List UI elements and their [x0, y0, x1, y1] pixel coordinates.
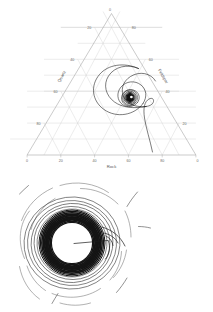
spiral-detail-panel: [0, 170, 213, 312]
bottom-tick-40: 40: [93, 159, 97, 163]
right-tick-60: 60: [149, 58, 153, 62]
ternary-grid: [10, 12, 196, 156]
left-tick-40: 40: [70, 58, 74, 62]
left-axis-title: Quartz: [56, 70, 67, 83]
left-tick-80: 80: [37, 122, 41, 126]
bottom-tick-0: 0: [26, 159, 28, 163]
ternary-panel: 0 20 40 60 80 0 Rock 80 60 40 20 80 60 4…: [0, 0, 213, 170]
ternary-diagram: 0 20 40 60 80 0 Rock 80 60 40 20 80 60 4…: [0, 0, 213, 170]
bottom-tick-100: 0: [197, 159, 199, 163]
left-tick-60: 60: [53, 90, 57, 94]
left-tick-20: 20: [87, 26, 91, 30]
right-tick-40: 40: [166, 90, 170, 94]
bottom-tick-20: 20: [59, 159, 63, 163]
ternary-frame: [27, 14, 196, 156]
fixed-point-marker: [130, 96, 133, 99]
apex-label: 0: [109, 8, 111, 12]
spiral-detail-diagram: [0, 170, 213, 312]
bottom-tick-80: 80: [160, 159, 164, 163]
right-tick-20: 20: [183, 122, 187, 126]
bottom-axis-title: Rock: [107, 164, 117, 169]
detail-inner-disc: [53, 224, 91, 262]
right-axis-title: Feldspar: [157, 68, 170, 85]
figure-root: 0 20 40 60 80 0 Rock 80 60 40 20 80 60 4…: [0, 0, 213, 312]
bottom-ticks: [27, 155, 196, 157]
right-tick-80: 80: [132, 26, 136, 30]
bottom-tick-60: 60: [126, 159, 130, 163]
spiral-core: [122, 90, 137, 105]
